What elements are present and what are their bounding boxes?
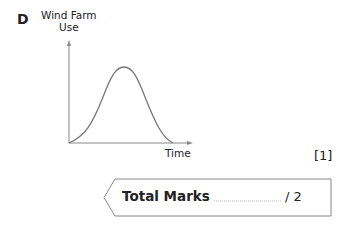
x-axis-label: Time [165, 147, 191, 159]
y-axis-arrow-icon [67, 40, 71, 46]
total-marks-out-of: / 2 [285, 189, 302, 204]
total-marks-label: Total Marks [122, 188, 210, 204]
marks-indicator: [1] [314, 148, 332, 163]
x-axis-arrow-icon [187, 141, 193, 145]
bell-curve [69, 67, 173, 143]
